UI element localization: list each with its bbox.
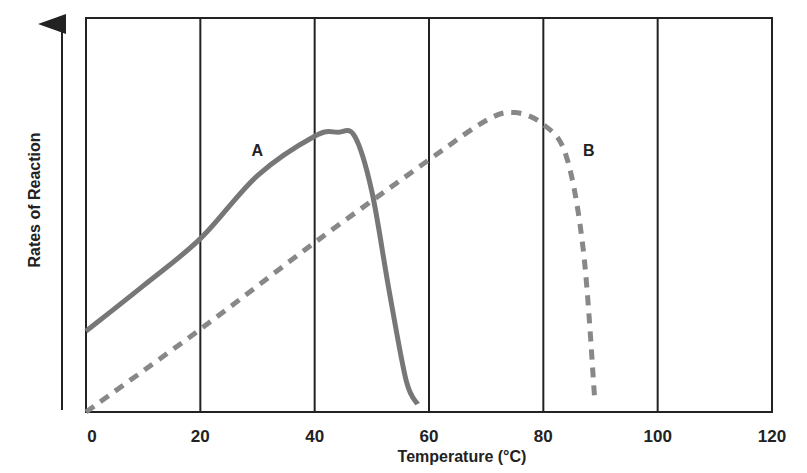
- series-layer: [86, 112, 595, 412]
- curve-label-b: B: [583, 142, 595, 159]
- x-tick-label: 60: [420, 427, 439, 446]
- x-tick-label: 40: [305, 427, 324, 446]
- x-tick-label: 0: [87, 427, 96, 446]
- x-axis-title: Temperature (°C): [398, 448, 527, 465]
- series-b-line: [86, 112, 595, 412]
- vertical-gridlines: [200, 18, 657, 412]
- reaction-rate-chart: AB 020406080100120 Temperature (°C) Rate…: [0, 0, 807, 473]
- x-tick-label: 100: [643, 427, 671, 446]
- x-tick-label: 80: [534, 427, 553, 446]
- y-axis-title: Rates of Reaction: [26, 132, 43, 267]
- curve-label-a: A: [252, 142, 264, 159]
- x-tick-labels: 020406080100120: [87, 427, 786, 446]
- x-tick-label: 120: [758, 427, 786, 446]
- series-a-line: [86, 131, 418, 405]
- x-tick-label: 20: [191, 427, 210, 446]
